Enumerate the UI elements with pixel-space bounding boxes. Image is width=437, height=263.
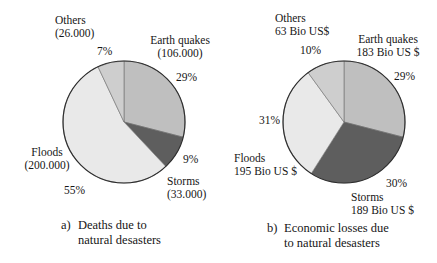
caption-losses: b) Economic losses due to natural desast…	[267, 221, 389, 251]
slice-value: 183 Bio US $	[352, 46, 424, 59]
caption-text: Deaths due to natural desasters	[78, 218, 161, 248]
pct-losses-others: 10%	[300, 44, 321, 56]
pie-deaths	[63, 61, 185, 183]
pct-losses-storms: 30%	[386, 177, 407, 189]
slice-value: (33.000)	[167, 188, 206, 201]
slice-value: (200.000)	[18, 159, 76, 172]
pct-deaths-others: 7%	[97, 45, 112, 57]
caption-deaths: a) Deaths due to natural desasters	[61, 218, 161, 248]
figure-natural-disasters: Others (26.000) 7% Earth quakes (106.000…	[0, 0, 437, 263]
label-deaths-floods: Floods (200.000)	[18, 146, 76, 172]
label-losses-storms: Storms 189 Bio US $	[351, 191, 414, 217]
slice-name: Storms	[351, 191, 414, 204]
label-losses-earthquakes: Earth quakes 183 Bio US $	[352, 33, 424, 59]
caption-marker: a)	[61, 218, 78, 248]
slice-value: 63 Bio US$	[275, 25, 329, 38]
label-deaths-earthquakes: Earth quakes (106.000)	[146, 34, 214, 60]
pie-losses	[283, 61, 405, 183]
slice-name: Floods	[234, 152, 297, 165]
caption-text: Economic losses due to natural desasters	[284, 221, 389, 251]
caption-marker: b)	[267, 221, 284, 251]
slice-name: Floods	[18, 146, 76, 159]
label-deaths-storms: Storms (33.000)	[167, 175, 206, 201]
slice-name: Others	[275, 12, 329, 25]
label-losses-floods: Floods 195 Bio US $	[234, 152, 297, 178]
label-losses-others: Others 63 Bio US$	[275, 12, 329, 38]
slice-name: Earth quakes	[146, 34, 214, 47]
label-deaths-others: Others (26.000)	[55, 14, 94, 40]
slice-value: (106.000)	[146, 47, 214, 60]
slice-value: 189 Bio US $	[351, 204, 414, 217]
pct-losses-earthquakes: 29%	[394, 70, 415, 82]
slice-name: Earth quakes	[352, 33, 424, 46]
pct-losses-floods: 31%	[259, 114, 280, 126]
pct-deaths-storms: 9%	[183, 153, 198, 165]
pct-deaths-floods: 55%	[64, 184, 85, 196]
pct-deaths-earthquakes: 29%	[176, 71, 197, 83]
slice-name: Storms	[167, 175, 206, 188]
slice-name: Others	[55, 14, 94, 27]
slice-value: 195 Bio US $	[234, 165, 297, 178]
slice-value: (26.000)	[55, 27, 94, 40]
